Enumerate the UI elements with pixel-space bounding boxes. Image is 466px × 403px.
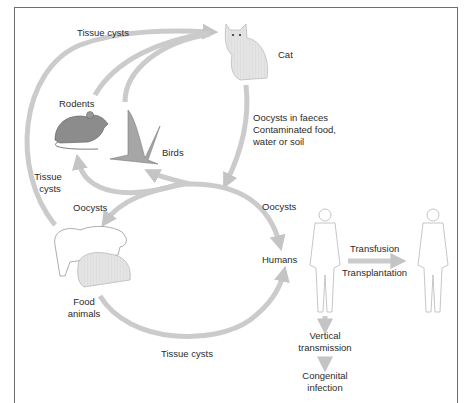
label-transfusion: Transfusion bbox=[350, 243, 399, 255]
human-illustration-2 bbox=[418, 209, 448, 312]
label-oocysts-right: Oocysts bbox=[262, 201, 296, 213]
label-left-tissue: Tissue bbox=[30, 171, 66, 183]
label-congenital: Congenital bbox=[290, 370, 360, 382]
label-top-tissue-cysts: Tissue cysts bbox=[77, 27, 129, 39]
label-transplantation: Transplantation bbox=[342, 267, 407, 279]
arrow-cat-to-environment bbox=[226, 85, 247, 183]
arrow-rodents-to-cat bbox=[95, 33, 210, 95]
label-oocysts-left: Oocysts bbox=[73, 202, 107, 214]
label-water-or-soil: water or soil bbox=[253, 136, 304, 148]
label-rodents: Rodents bbox=[59, 98, 94, 110]
label-oocysts-in-faeces: Oocysts in faeces bbox=[253, 112, 328, 124]
label-animals: animals bbox=[64, 308, 104, 320]
arrow-tissue-cysts-to-humans bbox=[100, 272, 284, 336]
label-infection: infection bbox=[290, 382, 360, 394]
label-cat: Cat bbox=[278, 49, 293, 61]
rodent-illustration bbox=[55, 112, 108, 150]
label-transmission: transmission bbox=[290, 342, 360, 354]
label-birds: Birds bbox=[162, 147, 184, 159]
bird-illustration bbox=[110, 110, 160, 164]
arrow-oocysts-to-humans bbox=[185, 184, 280, 245]
label-food: Food bbox=[64, 296, 104, 308]
food-animals-illustration bbox=[55, 226, 131, 287]
label-vertical: Vertical bbox=[290, 330, 360, 342]
human-illustration-1 bbox=[310, 209, 340, 312]
label-left-cysts: cysts bbox=[32, 183, 68, 195]
cat-illustration bbox=[225, 24, 267, 80]
label-bottom-tissue-cysts: Tissue cysts bbox=[161, 348, 213, 360]
arrow-food-animals-to-cat bbox=[27, 31, 212, 225]
label-contaminated-food: Contaminated food, bbox=[253, 124, 336, 136]
label-humans: Humans bbox=[262, 254, 297, 266]
